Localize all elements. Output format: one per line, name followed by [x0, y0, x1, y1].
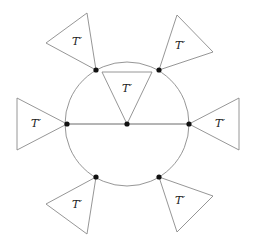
- node-top-right: [156, 67, 161, 72]
- triangle-label-bottom-left: T′: [72, 198, 82, 211]
- node-top-left: [93, 67, 98, 72]
- node-bottom-right: [156, 174, 161, 179]
- triangle-left: [17, 98, 67, 150]
- node-center: [124, 121, 129, 126]
- triangle-center: [102, 72, 152, 124]
- triangle-bottom-left: [46, 177, 96, 234]
- triangle-top-right: [159, 15, 213, 70]
- triangle-label-center: T′: [122, 82, 132, 95]
- triangle-label-left: T′: [31, 117, 41, 130]
- triangle-bottom-right: [159, 177, 213, 232]
- node-left: [64, 121, 69, 126]
- triangle-right: [189, 98, 239, 150]
- triangle-label-right: T′: [215, 117, 225, 130]
- triangle-label-bottom-right: T′: [175, 194, 185, 207]
- triangle-top-left: [46, 13, 96, 70]
- tree-circle-diagram: T′T′T′T′T′T′T′: [0, 0, 253, 249]
- node-bottom-left: [93, 174, 98, 179]
- node-right: [186, 121, 191, 126]
- triangle-label-top-right: T′: [175, 39, 185, 52]
- triangle-label-top-left: T′: [72, 35, 82, 48]
